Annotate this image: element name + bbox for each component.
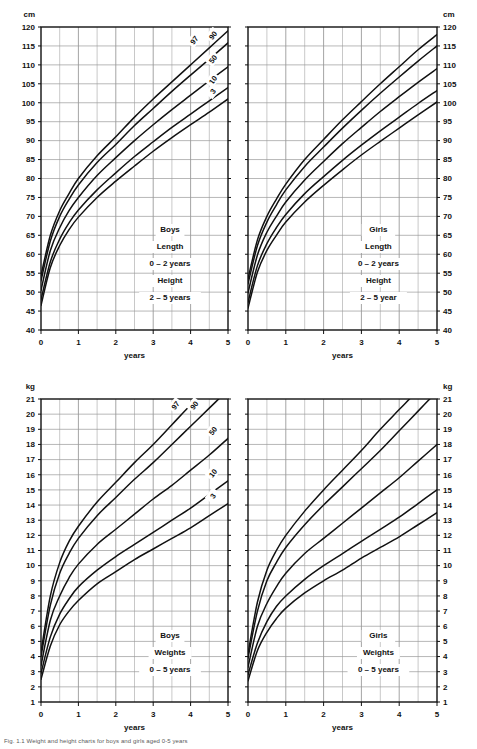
y-tick-label: 5: [443, 637, 448, 646]
annotation-line: Boys: [160, 225, 180, 234]
x-tick-label: 5: [226, 338, 231, 347]
percentile-label-50: 50: [205, 422, 221, 438]
annotation-line: Height: [158, 276, 183, 285]
y-tick-label: 55: [443, 269, 452, 278]
y-tick-label: 100: [443, 99, 457, 108]
chart-boys-weights: 123456789101112131415161718192021kg01234…: [0, 372, 240, 744]
x-tick-label: 4: [397, 338, 402, 347]
x-axis-title: years: [124, 723, 145, 732]
y-tick-label: 18: [26, 440, 35, 449]
y-tick-label: 120: [443, 23, 457, 32]
y-tick-label: 6: [31, 622, 36, 631]
x-axis-title: years: [332, 723, 353, 732]
y-tick-label: 110: [443, 61, 456, 70]
y-tick-label: 90: [443, 136, 452, 145]
x-tick-label: 5: [226, 710, 231, 719]
y-tick-label: 2: [443, 683, 448, 692]
grid-lines: [41, 399, 228, 702]
y-tick-label: 45: [443, 307, 452, 316]
y-tick-label: 50: [443, 288, 452, 297]
x-tick-label: 4: [188, 338, 193, 347]
y-tick-label: 17: [443, 455, 452, 464]
y-tick-label: 60: [443, 250, 452, 259]
y-tick-label: 8: [31, 592, 36, 601]
x-tick-label: 5: [435, 710, 440, 719]
x-tick-label: 3: [151, 338, 156, 347]
y-tick-label: 45: [26, 307, 35, 316]
y-tick-label: 21: [26, 395, 35, 404]
y-tick-label: 11: [443, 546, 452, 555]
y-tick-label: 40: [26, 326, 35, 335]
grid-lines: [248, 27, 437, 330]
y-tick-label: 18: [443, 440, 452, 449]
y-tick-label: 55: [26, 269, 35, 278]
x-tick-label: 4: [188, 710, 193, 719]
y-tick-label: 15: [26, 486, 35, 495]
x-axis: 012345: [246, 702, 440, 719]
y-tick-label: 85: [443, 155, 452, 164]
x-tick-label: 3: [359, 710, 364, 719]
y-tick-label: 1: [443, 698, 448, 707]
y-tick-label: 115: [443, 42, 456, 51]
y-tick-label: 20: [26, 410, 35, 419]
y-tick-label: 6: [443, 622, 448, 631]
x-tick-label: 0: [39, 338, 44, 347]
y-tick-label: 75: [26, 193, 35, 202]
y-tick-label: 4: [31, 652, 36, 661]
y-tick-label: 1: [31, 698, 36, 707]
x-tick-label: 0: [246, 338, 251, 347]
y-tick-label: 7: [31, 607, 36, 616]
annotation-line: Length: [365, 242, 392, 251]
x-tick-label: 2: [114, 710, 119, 719]
y-tick-label: 20: [443, 410, 452, 419]
y-tick-label: 14: [443, 501, 452, 510]
annotation-line: Weights: [363, 648, 395, 657]
x-tick-label: 1: [76, 710, 81, 719]
x-tick-label: 5: [435, 338, 440, 347]
chart-annotation: GirlsLength0 – 2 yearsHeight2 – 5 year: [348, 224, 410, 304]
x-tick-label: 3: [151, 710, 156, 719]
x-axis-title: years: [332, 351, 353, 360]
percentile-labels: 979050103: [186, 27, 221, 99]
y-unit-label: kg: [26, 382, 35, 391]
x-tick-label: 3: [359, 338, 364, 347]
y-tick-label: 12: [26, 531, 35, 540]
y-tick-label: 85: [26, 155, 35, 164]
x-tick-label: 2: [321, 338, 326, 347]
y-tick-label: 8: [443, 592, 448, 601]
y-tick-label: 50: [26, 288, 35, 297]
percentile-label-3: 3: [205, 83, 221, 99]
y-tick-label: 10: [443, 561, 452, 570]
x-tick-label: 1: [76, 338, 81, 347]
percentile-label-10: 10: [205, 465, 221, 481]
y-tick-label: 70: [443, 212, 452, 221]
y-tick-label: 65: [443, 231, 452, 240]
y-tick-label: 105: [22, 80, 36, 89]
y-tick-label: 120: [22, 23, 36, 32]
percentile-label-90: 90: [205, 27, 221, 43]
x-tick-label: 1: [284, 710, 289, 719]
y-tick-label: 9: [31, 577, 36, 586]
percentile-labels: 979050103: [167, 397, 220, 504]
x-tick-label: 0: [246, 710, 251, 719]
y-tick-label: 65: [26, 231, 35, 240]
x-tick-label: 2: [114, 338, 119, 347]
annotation-line: Height: [366, 276, 391, 285]
annotation-line: 2 – 5 years: [150, 293, 191, 302]
y-tick-label: 80: [443, 174, 452, 183]
annotation-line: Weights: [155, 648, 187, 657]
y-tick-label: 7: [443, 607, 448, 616]
chart-girls-weights: 123456789101112131415161718192021kg01234…: [240, 372, 477, 744]
y-tick-label: 90: [26, 136, 35, 145]
y-tick-label: 16: [443, 471, 452, 480]
grid-lines: [41, 27, 228, 330]
y-tick-label: 75: [443, 193, 452, 202]
chart-annotation: BoysLength0 – 2 yearsHeight2 – 5 years: [139, 224, 201, 304]
chart-boys-length-height: 404550556065707580859095100105110115120c…: [0, 0, 240, 372]
chart-annotation: BoysWeights0 – 5 years: [139, 630, 201, 676]
chart-girls-length-height: 404550556065707580859095100105110115120c…: [240, 0, 477, 372]
x-axis: 012345: [39, 702, 231, 719]
y-tick-label: 70: [26, 212, 35, 221]
y-tick-label: 21: [443, 395, 452, 404]
y-tick-label: 10: [26, 561, 35, 570]
